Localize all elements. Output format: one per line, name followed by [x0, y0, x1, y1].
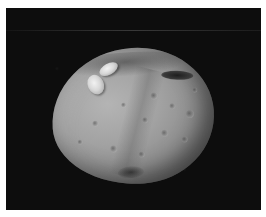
crater [169, 103, 175, 109]
terminator-shadow-band [110, 66, 166, 180]
crater [192, 87, 197, 92]
crater [92, 120, 98, 126]
dark-crater-streak [161, 70, 193, 80]
crater [186, 110, 195, 119]
crater [182, 136, 188, 142]
photo-frame [6, 8, 261, 210]
scan-line-artifact [6, 30, 261, 31]
southern-pit [118, 165, 145, 179]
crater [78, 140, 83, 145]
crater [161, 130, 168, 137]
